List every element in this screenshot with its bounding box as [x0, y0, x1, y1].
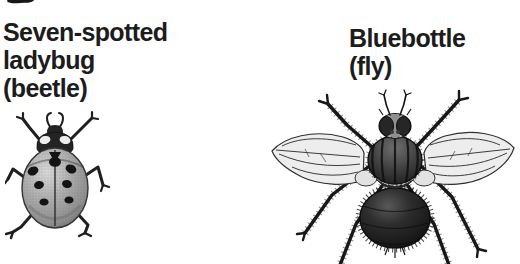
- bluebottle-fly-illustration: [250, 87, 520, 264]
- ladybug-label-line2: ladybug: [3, 46, 167, 74]
- fly-label-line2: (fly): [349, 52, 465, 80]
- ladybug-label-line1: Seven-spotted: [3, 18, 167, 46]
- seven-spotted-ladybug-illustration: [5, 105, 120, 255]
- figure-canvas: Seven-spotted ladybug (beetle) Bluebottl…: [0, 0, 520, 264]
- fly-head: [379, 109, 411, 139]
- fly-abdomen: [358, 186, 432, 258]
- fly-label: Bluebottle (fly): [349, 24, 465, 80]
- ladybug-label: Seven-spotted ladybug (beetle): [3, 18, 167, 102]
- scan-artifact-smudge: [7, 0, 34, 3]
- fly-label-line1: Bluebottle: [349, 24, 465, 52]
- fly-left-wing: [272, 134, 364, 184]
- fly-right-wing: [424, 132, 514, 184]
- ladybug-label-line3: (beetle): [3, 74, 167, 102]
- fly-antennae: [379, 90, 411, 115]
